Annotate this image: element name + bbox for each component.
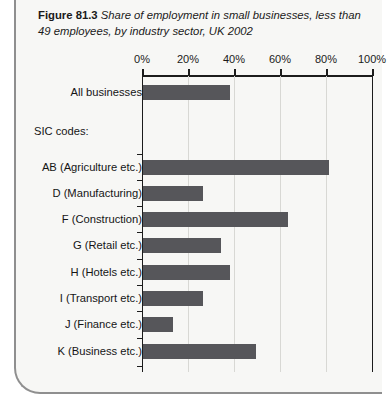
x-tick-label-100: 100% bbox=[358, 53, 386, 65]
sic-codes-label: SIC codes: bbox=[34, 125, 89, 137]
x-tick-40 bbox=[234, 69, 236, 76]
category-labels: SIC codes: All businessesAB (Agriculture… bbox=[0, 76, 391, 372]
category-label: I (Transport etc.) bbox=[60, 292, 142, 304]
category-label: H (Hotels etc.) bbox=[71, 266, 143, 278]
x-tick-100 bbox=[372, 69, 374, 76]
category-label: D (Manufacturing) bbox=[52, 187, 142, 199]
x-tick-60 bbox=[280, 69, 282, 76]
category-label: J (Finance etc.) bbox=[65, 318, 142, 330]
category-label: All businesses bbox=[70, 86, 142, 98]
x-tick-80 bbox=[326, 69, 328, 76]
x-tick-0 bbox=[142, 69, 144, 76]
category-label: G (Retail etc.) bbox=[73, 239, 142, 251]
x-tick-label-20: 20% bbox=[177, 53, 199, 65]
x-tick-20 bbox=[188, 69, 190, 76]
x-tick-label-60: 60% bbox=[269, 53, 291, 65]
category-label: K (Business etc.) bbox=[57, 345, 142, 357]
x-tick-label-40: 40% bbox=[223, 53, 245, 65]
category-label: AB (Agriculture etc.) bbox=[42, 161, 142, 173]
x-tick-label-80: 80% bbox=[315, 53, 337, 65]
category-label: F (Construction) bbox=[62, 213, 142, 225]
x-tick-label-0: 0% bbox=[134, 53, 150, 65]
